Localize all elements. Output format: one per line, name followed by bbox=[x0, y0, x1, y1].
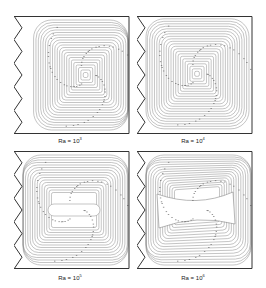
panel-label-ra-1e3: Ra = 103 bbox=[10, 136, 130, 144]
panel-label-ra-1e5: Ra = 105 bbox=[10, 273, 130, 281]
panel-ra-1e6 bbox=[137, 151, 253, 269]
streamline-plot bbox=[14, 16, 130, 134]
streamline-plot bbox=[14, 151, 130, 269]
streamline-plot bbox=[137, 16, 253, 134]
panel-ra-1e4 bbox=[137, 16, 253, 134]
panel-label-ra-1e4: Ra = 104 bbox=[133, 136, 253, 144]
panel-label-ra-1e6: Ra = 106 bbox=[133, 273, 253, 281]
panel-ra-1e5 bbox=[14, 151, 130, 269]
streamline-plot bbox=[137, 151, 253, 269]
panel-ra-1e3 bbox=[14, 16, 130, 134]
